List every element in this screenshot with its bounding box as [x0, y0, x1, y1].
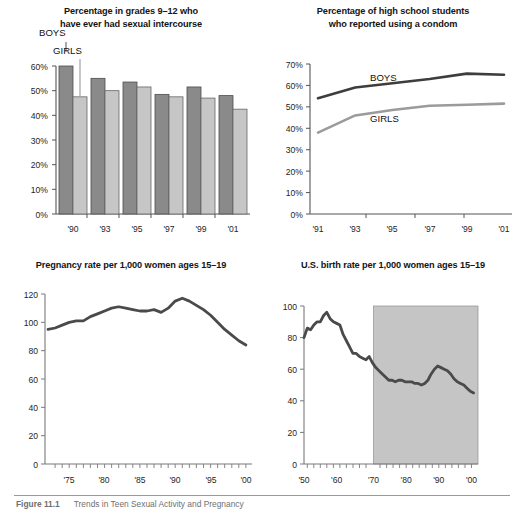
x-minor-ticks	[55, 464, 246, 468]
pregnancy-line-chart-svg: 120 100 80 60 40 20 0	[0, 276, 262, 491]
x-tick-labels: '90 '93 '95 '97 '99 '01	[67, 224, 238, 234]
x-tick-label: '50	[298, 475, 309, 485]
line-boys	[318, 74, 504, 99]
bar-boys	[91, 78, 105, 214]
figure-caption-text: Trends in Teen Sexual Activity and Pregn…	[74, 499, 244, 509]
x-tick-label: '91	[312, 224, 323, 234]
x-tick-label: '75	[63, 475, 74, 485]
y-tick-label: 0	[33, 460, 38, 470]
line-girls	[318, 104, 504, 133]
y-tick-label: 40	[28, 403, 38, 413]
y-tick-labels: 70% 60% 50% 40% 30% 20% 10% 0%	[286, 60, 304, 220]
bar-girls	[105, 91, 119, 214]
y-tick-label: 120	[24, 290, 39, 300]
x-tick-label: '95	[205, 475, 216, 485]
plot-area-birth-rate: 100 80 60 40 20 0	[262, 276, 524, 491]
x-tick-label: '99	[461, 224, 472, 234]
x-tick-label: '93	[349, 224, 360, 234]
label-girls: GIRLS	[53, 45, 82, 56]
bar-boys	[59, 66, 73, 214]
figure-caption-number: Figure 11.1	[16, 499, 60, 509]
plot-area-sexual-intercourse: 60% 50% 40% 30% 20% 10% 0%	[0, 38, 262, 254]
bar-girls	[201, 98, 215, 214]
y-tick-label: 60%	[286, 81, 304, 91]
y-tick-label: 100	[283, 302, 298, 312]
bar-boys	[187, 87, 201, 214]
y-tick-label: 10%	[31, 185, 49, 195]
y-tick-label: 10%	[286, 188, 304, 198]
panel-sexual-intercourse: Percentage in grades 9–12 who have ever …	[0, 0, 262, 254]
y-tick-label: 0%	[291, 210, 304, 220]
line-pregnancy-rate	[48, 298, 246, 345]
x-tick-labels: '75 '80 '85 '90 '95 '00	[63, 475, 251, 485]
panel-birth-rate: U.S. birth rate per 1,000 women ages 15–…	[262, 254, 524, 494]
y-tick-label: 50%	[286, 102, 304, 112]
bar-chart-svg: 60% 50% 40% 30% 20% 10% 0%	[0, 38, 262, 254]
x-tick-label: '70	[368, 475, 379, 485]
x-tick-label: '60	[331, 475, 342, 485]
x-tick-label: '97	[424, 224, 435, 234]
y-tick-label: 20%	[286, 167, 304, 177]
y-tick-label: 80	[287, 333, 297, 343]
y-tick-label: 100	[24, 318, 39, 328]
y-tick-label: 20%	[31, 160, 49, 170]
panel-condom-use: Percentage of high school students who r…	[262, 0, 524, 254]
y-tick-labels: 120 100 80 60 40 20 0	[24, 290, 39, 470]
label-boys: BOYS	[39, 27, 66, 38]
bar-boys	[219, 96, 233, 214]
x-tick-label: '80	[98, 475, 109, 485]
y-tick-label: 20	[287, 428, 297, 438]
x-tick-label: '99	[195, 224, 206, 234]
bar-girls	[137, 87, 151, 214]
y-tick-label: 40%	[31, 111, 49, 121]
bar-girls	[233, 109, 247, 214]
plot-area-pregnancy-rate: 120 100 80 60 40 20 0	[0, 276, 262, 491]
x-tick-label: '95	[386, 224, 397, 234]
panel-title-pregnancy-rate: Pregnancy rate per 1,000 women ages 15–1…	[6, 259, 256, 272]
x-tick-label: '85	[134, 475, 145, 485]
y-tick-label: 40	[287, 396, 297, 406]
panel-title-line1: Percentage in grades 9–12 who	[10, 5, 252, 18]
x-tick-label: '97	[163, 224, 174, 234]
x-tick-label: '90	[169, 475, 180, 485]
y-tick-label: 30%	[31, 136, 49, 146]
x-tick-label: '01	[498, 224, 509, 234]
label-boys: BOYS	[370, 72, 397, 83]
figure-caption: Figure 11.1Trends in Teen Sexual Activit…	[16, 499, 516, 509]
panel-title-line1: Percentage of high school students	[272, 5, 514, 18]
x-tick-label: '90	[67, 224, 78, 234]
bar-girls	[73, 97, 87, 214]
x-tick-label: '01	[227, 224, 238, 234]
x-tick-labels: '50 '60 '70 '80 '90 '00	[298, 475, 477, 485]
x-tick-label: '00	[240, 475, 251, 485]
y-tick-label: 60	[287, 365, 297, 375]
birth-rate-line-chart-svg: 100 80 60 40 20 0	[262, 276, 524, 491]
y-tick-label: 50%	[31, 86, 49, 96]
x-tick-label: '95	[131, 224, 142, 234]
y-tick-label: 30%	[286, 145, 304, 155]
y-tick-label: 20	[28, 431, 38, 441]
x-tick-label: '93	[99, 224, 110, 234]
x-tick-labels: '91 '93 '95 '97 '99 '01	[312, 224, 509, 234]
y-tick-label: 60%	[31, 62, 49, 72]
y-ticks	[300, 306, 304, 464]
bar-boys	[123, 82, 137, 214]
x-tick-label: '00	[466, 475, 477, 485]
x-ticks	[87, 214, 215, 218]
y-tick-label: 0	[292, 460, 297, 470]
x-ticks	[366, 214, 464, 218]
panel-title-condom-use: Percentage of high school students who r…	[272, 5, 514, 30]
y-tick-label: 80	[28, 346, 38, 356]
y-tick-label: 70%	[286, 60, 304, 70]
x-tick-label: '90	[433, 475, 444, 485]
panel-title-birth-rate: U.S. birth rate per 1,000 women ages 15–…	[268, 259, 518, 272]
y-tick-label: 40%	[286, 124, 304, 134]
label-girls: GIRLS	[370, 113, 399, 124]
plot-area-condom-use: 70% 60% 50% 40% 30% 20% 10% 0%	[262, 38, 524, 254]
y-ticks	[52, 66, 56, 214]
x-tick-label: '80	[401, 475, 412, 485]
y-tick-labels: 100 80 60 40 20 0	[283, 302, 298, 470]
y-ticks	[41, 294, 45, 464]
x-minor-ticks	[307, 464, 471, 468]
